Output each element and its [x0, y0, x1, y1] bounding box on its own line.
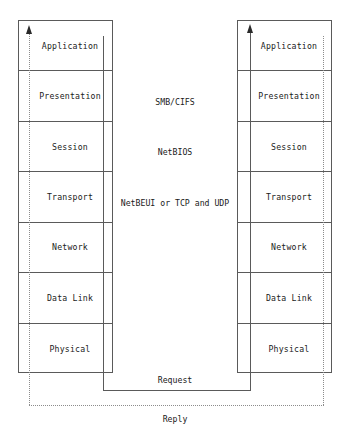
layer-box-network: Network — [238, 223, 331, 273]
reply-arrow-up-left-icon — [26, 25, 32, 34]
layer-label-data-link: Data Link — [238, 293, 331, 303]
request-path-horizontal — [103, 390, 251, 391]
layer-label-session: Session — [19, 142, 112, 152]
layer-label-transport: Transport — [238, 192, 331, 202]
request-rail-left — [103, 36, 104, 390]
layer-box-physical: Physical — [19, 324, 112, 374]
layer-label-session: Session — [238, 142, 331, 152]
reply-path-horizontal — [29, 405, 324, 406]
layer-label-network: Network — [19, 242, 112, 252]
protocol-smb-cifs: SMB/CIFS — [113, 97, 237, 107]
layer-box-presentation: Presentation — [19, 71, 112, 121]
layer-label-application: Application — [238, 41, 331, 51]
protocol-netbeui-tcp-udp: NetBEUI or TCP and UDP — [113, 198, 237, 208]
layer-box-presentation: Presentation — [238, 71, 331, 121]
reply-rail-left — [29, 30, 30, 405]
layer-box-application: Application — [19, 21, 112, 71]
protocol-stack-diagram: Application Presentation Session Transpo… — [0, 0, 350, 443]
layer-label-presentation: Presentation — [19, 91, 112, 101]
layer-label-transport: Transport — [19, 192, 112, 202]
reply-path-label: Reply — [113, 414, 237, 424]
request-arrow-up-right-icon — [247, 24, 253, 33]
layer-box-data-link: Data Link — [19, 273, 112, 323]
reply-rail-right — [323, 36, 324, 405]
layer-box-network: Network — [19, 223, 112, 273]
layer-box-physical: Physical — [238, 324, 331, 374]
server-protocol-stack: Application Presentation Session Transpo… — [237, 20, 332, 373]
request-rail-right — [250, 30, 251, 390]
layer-label-data-link: Data Link — [19, 293, 112, 303]
request-path-label: Request — [113, 375, 237, 385]
layer-box-data-link: Data Link — [238, 273, 331, 323]
layer-box-session: Session — [238, 122, 331, 172]
layer-box-transport: Transport — [238, 172, 331, 222]
layer-box-transport: Transport — [19, 172, 112, 222]
layer-label-application: Application — [19, 41, 112, 51]
layer-label-network: Network — [238, 242, 331, 252]
protocol-netbios: NetBIOS — [113, 147, 237, 157]
layer-label-physical: Physical — [238, 344, 331, 354]
layer-box-session: Session — [19, 122, 112, 172]
layer-label-presentation: Presentation — [238, 91, 331, 101]
client-protocol-stack: Application Presentation Session Transpo… — [18, 20, 113, 373]
layer-label-physical: Physical — [19, 344, 112, 354]
